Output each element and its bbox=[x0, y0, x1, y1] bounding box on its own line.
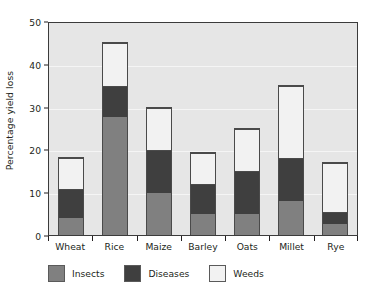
x-axis-labels: WheatRiceMaizeBarleyOatsMilletRye bbox=[48, 241, 358, 252]
x-axis-label-millet: Millet bbox=[269, 241, 313, 252]
bar-segment-diseases[interactable] bbox=[103, 86, 127, 117]
x-axis-tick-mark bbox=[314, 236, 315, 241]
x-axis-label-rice: Rice bbox=[92, 241, 136, 252]
bar-segment-weeds[interactable] bbox=[147, 108, 171, 150]
x-axis-tick-mark bbox=[48, 236, 49, 241]
x-axis-tick-mark bbox=[225, 236, 226, 241]
y-axis-tick-label: 0 bbox=[35, 231, 41, 242]
bar-segment-diseases[interactable] bbox=[235, 171, 259, 213]
y-axis-title: Percentage yield loss bbox=[0, 0, 20, 240]
x-axis-label-wheat: Wheat bbox=[48, 241, 92, 252]
x-axis-label-oats: Oats bbox=[225, 241, 269, 252]
y-axis-ticks: 01020304050 bbox=[18, 22, 48, 236]
y-axis-title-text: Percentage yield loss bbox=[5, 70, 16, 169]
legend-item-diseases[interactable]: Diseases bbox=[124, 265, 189, 282]
bar-segment-diseases[interactable] bbox=[323, 212, 347, 225]
legend-label: Weeds bbox=[233, 268, 263, 279]
bar-segment-weeds[interactable] bbox=[279, 86, 303, 158]
chart-legend: InsectsDiseasesWeeds bbox=[48, 265, 358, 282]
y-axis-tick-label: 20 bbox=[29, 145, 41, 156]
bar-segment-insects[interactable] bbox=[191, 214, 215, 235]
stacked-bar[interactable] bbox=[146, 107, 172, 235]
x-axis-label-maize: Maize bbox=[137, 241, 181, 252]
stacked-bar-chart-figure: Percentage yield loss 01020304050 WheatR… bbox=[0, 0, 381, 303]
stacked-bar[interactable] bbox=[190, 152, 216, 235]
y-axis-tick-label: 30 bbox=[29, 102, 41, 113]
legend-item-insects[interactable]: Insects bbox=[48, 265, 104, 282]
bar-slot bbox=[181, 23, 225, 235]
stacked-bar[interactable] bbox=[102, 42, 128, 235]
bar-slot bbox=[269, 23, 313, 235]
x-axis-tick-mark bbox=[269, 236, 270, 241]
legend-swatch-weeds bbox=[209, 265, 226, 282]
bar-segment-insects[interactable] bbox=[147, 193, 171, 235]
bar-segment-insects[interactable] bbox=[323, 224, 347, 235]
bar-slot bbox=[137, 23, 181, 235]
legend-item-weeds[interactable]: Weeds bbox=[209, 265, 263, 282]
bar-segment-diseases[interactable] bbox=[279, 158, 303, 201]
bar-segment-insects[interactable] bbox=[235, 214, 259, 235]
y-axis-tick-label: 50 bbox=[29, 17, 41, 28]
bar-slot bbox=[49, 23, 93, 235]
y-axis-tick-label: 40 bbox=[29, 59, 41, 70]
bar-segment-diseases[interactable] bbox=[59, 189, 83, 219]
bar-segment-insects[interactable] bbox=[59, 218, 83, 235]
bar-segment-insects[interactable] bbox=[103, 117, 127, 235]
bar-segment-weeds[interactable] bbox=[59, 158, 83, 189]
stacked-bar[interactable] bbox=[278, 85, 304, 235]
bar-segment-weeds[interactable] bbox=[191, 153, 215, 185]
bar-segment-diseases[interactable] bbox=[147, 150, 171, 192]
x-axis-tick-mark bbox=[137, 236, 138, 241]
stacked-bar[interactable] bbox=[234, 128, 260, 235]
y-axis-tick-label: 10 bbox=[29, 188, 41, 199]
stacked-bar[interactable] bbox=[58, 157, 84, 235]
legend-label: Diseases bbox=[148, 268, 189, 279]
bar-group-container bbox=[49, 23, 357, 235]
x-axis-tick-mark bbox=[92, 236, 93, 241]
legend-label: Insects bbox=[72, 268, 104, 279]
x-axis-label-barley: Barley bbox=[181, 241, 225, 252]
legend-swatch-diseases bbox=[124, 265, 141, 282]
stacked-bar[interactable] bbox=[322, 162, 348, 235]
x-axis-tick-mark bbox=[357, 236, 358, 241]
legend-swatch-insects bbox=[48, 265, 65, 282]
bar-segment-weeds[interactable] bbox=[235, 129, 259, 171]
bar-slot bbox=[93, 23, 137, 235]
bar-segment-weeds[interactable] bbox=[323, 163, 347, 212]
bar-slot bbox=[225, 23, 269, 235]
bar-segment-diseases[interactable] bbox=[191, 184, 215, 214]
plot-area bbox=[48, 22, 358, 236]
bar-slot bbox=[313, 23, 357, 235]
x-axis-tick-mark bbox=[181, 236, 182, 241]
x-axis-label-rye: Rye bbox=[314, 241, 358, 252]
bar-segment-weeds[interactable] bbox=[103, 43, 127, 86]
bar-segment-insects[interactable] bbox=[279, 201, 303, 235]
